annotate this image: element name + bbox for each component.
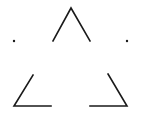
left-dot — [13, 40, 15, 42]
right-dot — [126, 40, 128, 42]
bottom-left-corner-fragment — [14, 75, 51, 106]
top-apex-fragment — [53, 8, 90, 41]
illusory-triangle-diagram: Illusory (subjective) triangle formed by… — [0, 0, 142, 127]
diagram-canvas — [0, 0, 142, 127]
bottom-right-corner-fragment — [90, 74, 127, 106]
